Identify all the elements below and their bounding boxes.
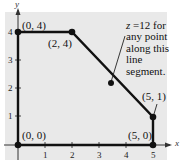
x-tick-2: 2 xyxy=(70,151,75,160)
y-axis-arrow-icon xyxy=(16,8,21,15)
x-axis-arrow-icon xyxy=(165,143,172,148)
vertex-5-1 xyxy=(150,114,157,121)
annotation-text: z =12 for any point along this line segm… xyxy=(126,20,186,77)
annotation-line-5: segment. xyxy=(126,66,186,77)
vertex-0-4 xyxy=(15,29,22,36)
label-vertex-0-0: (0, 0) xyxy=(22,130,46,141)
y-tick-3: 3 xyxy=(8,56,13,65)
label-vertex-0-4: (0, 4) xyxy=(22,20,46,31)
vertex-2-4 xyxy=(69,29,76,36)
x-tick-5: 5 xyxy=(151,151,156,160)
y-tick-1: 1 xyxy=(8,112,13,121)
x-tick-3: 3 xyxy=(97,151,102,160)
x-axis-label: x xyxy=(175,138,179,148)
x-tick-4: 4 xyxy=(124,151,129,160)
label-vertex-2-4: (2, 4) xyxy=(48,38,72,49)
label-vertex-5-1: (5, 1) xyxy=(142,91,166,102)
y-axis-label: y xyxy=(15,0,19,9)
label-vertex-5-0: (5, 0) xyxy=(128,130,152,141)
vertex-0-0 xyxy=(15,142,22,149)
vertex-5-0 xyxy=(150,142,157,149)
y-tick-2: 2 xyxy=(8,84,13,93)
annotation-line-1: =12 for xyxy=(130,19,166,31)
annotation-line-4: line xyxy=(126,54,186,65)
y-tick-4: 4 xyxy=(8,28,13,37)
x-tick-1: 1 xyxy=(43,151,48,160)
segment-point xyxy=(108,80,114,86)
